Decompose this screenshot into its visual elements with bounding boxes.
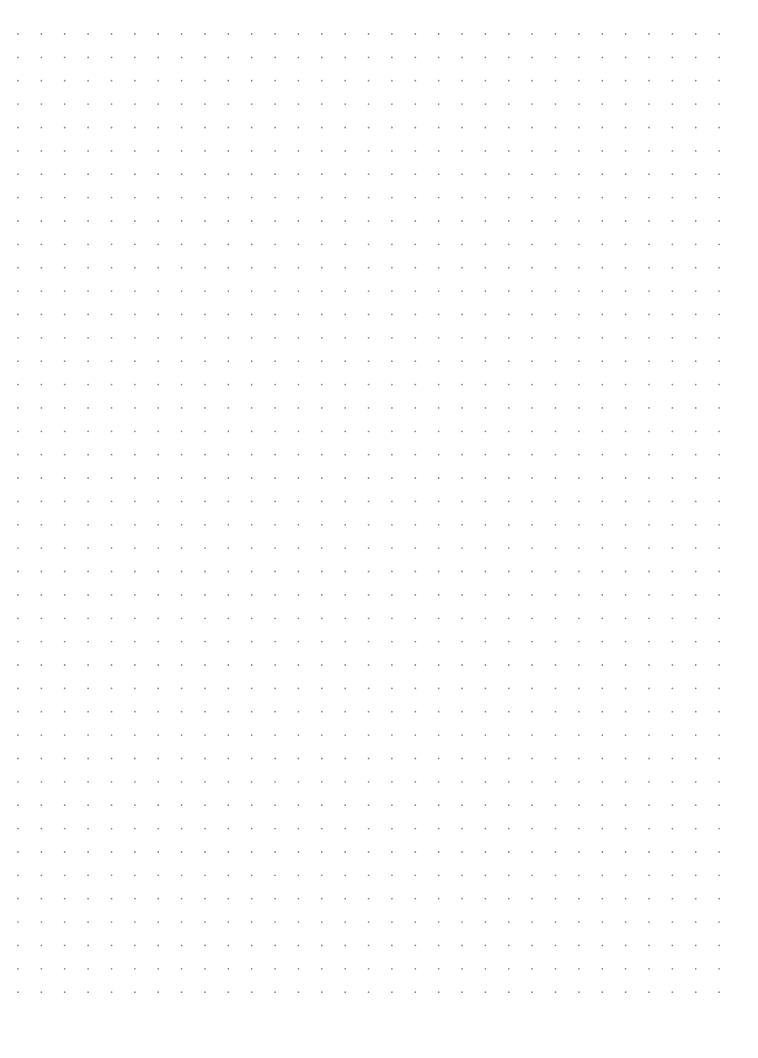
grid-dot: [555, 594, 557, 596]
grid-dot: [625, 454, 627, 456]
grid-dot: [274, 103, 276, 105]
grid-dot: [414, 571, 416, 573]
grid-dot: [391, 454, 393, 456]
grid-dot: [344, 968, 346, 970]
grid-dot: [695, 828, 697, 830]
grid-dot: [461, 617, 463, 619]
grid-dot: [204, 921, 206, 923]
grid-dot: [321, 430, 323, 432]
grid-dot: [181, 173, 183, 175]
grid-dot: [321, 477, 323, 479]
grid-dot: [298, 454, 300, 456]
grid-dot: [672, 127, 674, 129]
grid-dot: [391, 430, 393, 432]
grid-dot: [625, 781, 627, 783]
grid-dot: [298, 57, 300, 59]
grid-dot: [508, 80, 510, 82]
grid-dot: [508, 711, 510, 713]
grid-dot: [181, 267, 183, 269]
grid-dot: [274, 337, 276, 339]
grid-dot: [111, 384, 113, 386]
grid-dot: [157, 547, 159, 549]
grid-dot: [485, 290, 487, 292]
grid-dot: [251, 828, 253, 830]
grid-dot: [64, 267, 66, 269]
grid-dot: [64, 80, 66, 82]
grid-dot: [111, 571, 113, 573]
grid-dot: [414, 290, 416, 292]
grid-dot: [695, 314, 697, 316]
grid-dot: [87, 641, 89, 643]
grid-dot: [508, 314, 510, 316]
grid-dot: [157, 664, 159, 666]
grid-dot: [508, 991, 510, 993]
grid-dot: [391, 57, 393, 59]
grid-dot: [251, 57, 253, 59]
grid-dot: [134, 851, 136, 853]
grid-dot: [508, 150, 510, 152]
grid-dot: [111, 804, 113, 806]
grid-dot: [391, 594, 393, 596]
grid-dot: [41, 430, 43, 432]
grid-dot: [204, 314, 206, 316]
grid-dot: [298, 477, 300, 479]
grid-dot: [41, 290, 43, 292]
grid-dot: [181, 360, 183, 362]
grid-dot: [601, 617, 603, 619]
grid-dot: [17, 501, 19, 503]
grid-dot: [298, 360, 300, 362]
grid-dot: [204, 290, 206, 292]
grid-dot: [672, 220, 674, 222]
grid-dot: [111, 220, 113, 222]
grid-dot: [64, 688, 66, 690]
grid-dot: [461, 758, 463, 760]
grid-dot: [274, 360, 276, 362]
grid-dot: [87, 734, 89, 736]
grid-dot: [485, 57, 487, 59]
grid-dot: [485, 33, 487, 35]
grid-dot: [391, 547, 393, 549]
grid-dot: [695, 524, 697, 526]
grid-dot: [298, 267, 300, 269]
grid-dot: [391, 945, 393, 947]
grid-dot: [41, 150, 43, 152]
grid-dot: [648, 828, 650, 830]
grid-dot: [181, 430, 183, 432]
grid-dot: [181, 804, 183, 806]
grid-dot: [251, 711, 253, 713]
grid-dot: [181, 127, 183, 129]
grid-dot: [17, 758, 19, 760]
grid-dot: [111, 991, 113, 993]
grid-dot: [695, 477, 697, 479]
grid-dot: [485, 991, 487, 993]
grid-dot: [274, 711, 276, 713]
grid-dot: [414, 711, 416, 713]
grid-dot: [438, 173, 440, 175]
grid-dot: [531, 664, 533, 666]
grid-dot: [555, 968, 557, 970]
grid-dot: [601, 407, 603, 409]
grid-dot: [87, 501, 89, 503]
grid-dot: [718, 80, 720, 82]
grid-dot: [157, 80, 159, 82]
grid-dot: [718, 127, 720, 129]
grid-dot: [438, 617, 440, 619]
grid-dot: [648, 57, 650, 59]
grid-dot: [181, 781, 183, 783]
grid-dot: [695, 991, 697, 993]
grid-dot: [648, 173, 650, 175]
grid-dot: [531, 781, 533, 783]
grid-dot: [204, 360, 206, 362]
grid-dot: [157, 384, 159, 386]
grid-dot: [508, 804, 510, 806]
grid-dot: [157, 454, 159, 456]
grid-dot: [344, 360, 346, 362]
grid-dot: [204, 688, 206, 690]
grid-dot: [17, 430, 19, 432]
grid-dot: [298, 711, 300, 713]
grid-dot: [157, 267, 159, 269]
grid-dot: [227, 337, 229, 339]
grid-dot: [695, 945, 697, 947]
grid-dot: [625, 547, 627, 549]
grid-dot: [64, 781, 66, 783]
